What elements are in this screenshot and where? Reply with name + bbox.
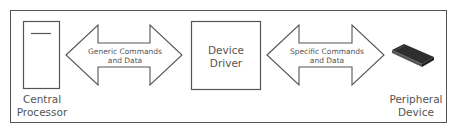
driver-label-line2: Driver [191,57,261,70]
hard-drive-icon [392,44,434,67]
generic-label-line1: Generic Commands [85,47,165,56]
cpu-label-line2: Processor [8,106,76,119]
peripheral-label: Peripheral Device [382,93,450,118]
peripheral-label-line1: Peripheral [382,93,450,106]
specific-commands-label: Specific Commands and Data [285,47,369,65]
specific-label-line1: Specific Commands [285,47,369,56]
cpu-label-line1: Central [8,93,76,106]
cpu-label: Central Processor [8,93,76,118]
generic-commands-label: Generic Commands and Data [85,47,165,65]
driver-label-line1: Device [191,44,261,57]
specific-label-line2: and Data [285,56,369,65]
generic-label-line2: and Data [85,56,165,65]
cpu-tower-icon [24,22,60,89]
device-driver-label: Device Driver [191,44,261,69]
peripheral-label-line2: Device [382,106,450,119]
